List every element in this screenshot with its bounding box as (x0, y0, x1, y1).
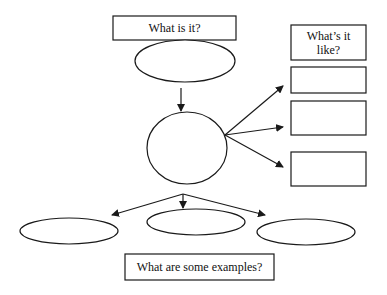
property-box-1[interactable] (291, 67, 366, 93)
whats-it-like-label: What’s it like? (299, 25, 358, 60)
property-box-3[interactable] (291, 152, 366, 186)
definition-ellipse[interactable] (135, 40, 235, 82)
what-is-it-label: What is it? (113, 16, 236, 40)
property-box-2[interactable] (291, 101, 366, 135)
example-ellipse-2[interactable] (147, 209, 245, 235)
concept-map: What is it? What’s it like? What are som… (0, 0, 387, 295)
arrow-to-property-3 (225, 135, 283, 167)
examples-label: What are some examples? (125, 254, 274, 280)
example-ellipse-3[interactable] (257, 219, 355, 245)
center-circle[interactable] (147, 112, 227, 184)
example-ellipse-1[interactable] (20, 218, 118, 244)
